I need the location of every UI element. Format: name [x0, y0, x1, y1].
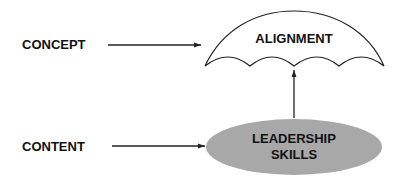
alignment-label: ALIGNMENT: [255, 31, 332, 46]
ellipse-label-line2: SKILLS: [271, 147, 318, 162]
content-label: CONTENT: [22, 139, 85, 154]
ellipse-label-line1: LEADERSHIP: [252, 131, 336, 146]
diagram: CONCEPT ALIGNMENT LEADERSHIP SKILLS CONT…: [0, 0, 402, 182]
concept-label: CONCEPT: [22, 37, 86, 52]
